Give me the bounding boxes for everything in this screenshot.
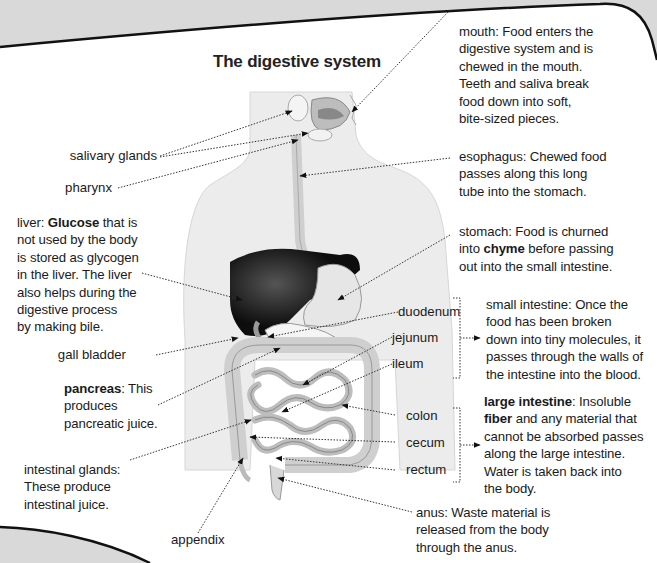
label-pharynx: pharynx xyxy=(65,180,112,196)
label-anus: anus: Waste material is released from th… xyxy=(416,504,596,556)
label-duodenum: duodenum xyxy=(398,304,460,320)
label-mouth: mouth: Food enters the digestive system … xyxy=(459,23,649,127)
label-colon: colon xyxy=(406,408,438,424)
label-ileum: ileum xyxy=(392,356,424,372)
label-liver: liver: Glucose that is not used by the b… xyxy=(17,214,167,336)
diagram-title: The digestive system xyxy=(213,52,381,72)
label-stomach: stomach: Food is churned into chyme befo… xyxy=(459,223,654,275)
label-cecum: cecum xyxy=(406,435,445,451)
label-esophagus: esophagus: Chewed food passes along this… xyxy=(459,148,649,200)
label-intestinal-glands: intestinal glands: These produce intesti… xyxy=(24,461,154,513)
label-gall-bladder: gall bladder xyxy=(58,347,126,363)
label-large-intestine: large intestine: Insoluble fiber and any… xyxy=(484,393,656,497)
label-appendix: appendix xyxy=(171,532,225,548)
label-salivary-glands: salivary glands xyxy=(70,148,157,164)
label-small-intestine: small intestine: Once the food has been … xyxy=(486,296,656,383)
label-pancreas: pancreas: This produces pancreatic juice… xyxy=(64,380,184,432)
label-rectum: rectum xyxy=(406,462,446,478)
label-jejunum: jejunum xyxy=(392,330,438,346)
